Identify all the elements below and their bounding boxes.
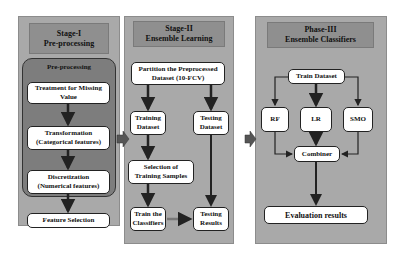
arrow-stage2-to-stage3 — [245, 131, 256, 147]
arrow-rf-to-combiner — [275, 132, 292, 154]
arrow-stage1-to-stage2 — [117, 131, 129, 147]
arrow-train-to-smo — [345, 77, 358, 105]
arrow-train-to-rf — [275, 77, 288, 105]
arrow-smo-to-combiner — [342, 132, 358, 154]
connector-arrows — [0, 0, 400, 253]
